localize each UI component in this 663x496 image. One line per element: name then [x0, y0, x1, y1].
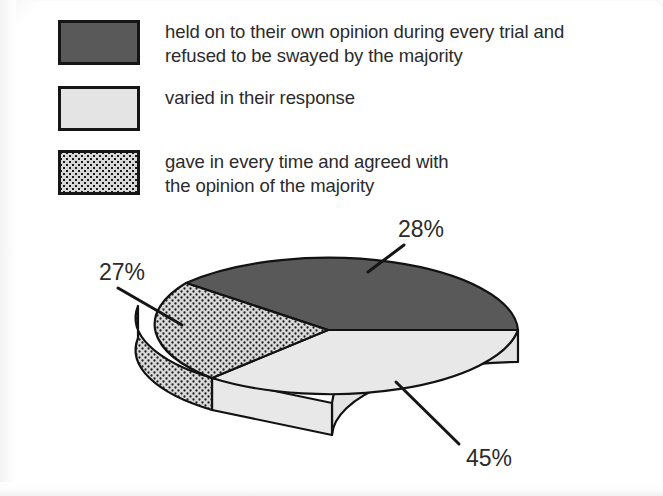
pie-chart-svg: 28% 27% 45% [0, 188, 663, 496]
pie-label-27: 27% [99, 259, 145, 285]
page-canvas: held on to their own opinion during ever… [0, 0, 663, 496]
legend-item-held-on: held on to their own opinion during ever… [58, 18, 638, 67]
legend-item-varied: varied in their response [58, 84, 638, 131]
chart-legend: held on to their own opinion during ever… [58, 18, 638, 215]
legend-swatch-dark-solid-icon [58, 20, 140, 65]
pie-label-45: 45% [466, 445, 512, 471]
legend-label-varied: varied in their response [165, 84, 355, 110]
pie-top-face [155, 258, 518, 394]
pie-label-28: 28% [398, 216, 444, 242]
legend-swatch-light-solid-icon [58, 86, 140, 131]
leader-line-45 [396, 382, 459, 444]
pie-chart: 28% 27% 45% [0, 188, 663, 496]
legend-label-held-on: held on to their own opinion during ever… [165, 18, 564, 67]
